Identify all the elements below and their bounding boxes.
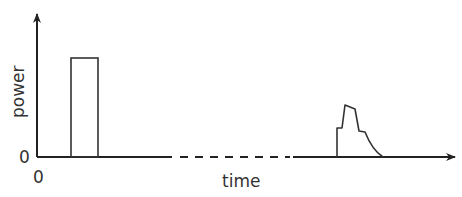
y-origin-label: 0 bbox=[19, 147, 30, 167]
x-axis-label: time bbox=[222, 171, 260, 191]
x-origin-label: 0 bbox=[33, 167, 44, 187]
power-time-diagram: power time 0 0 bbox=[0, 0, 462, 197]
y-axis-label: power bbox=[8, 65, 28, 118]
decaying-pulse bbox=[337, 105, 383, 157]
rectangular-pulse bbox=[71, 58, 98, 157]
